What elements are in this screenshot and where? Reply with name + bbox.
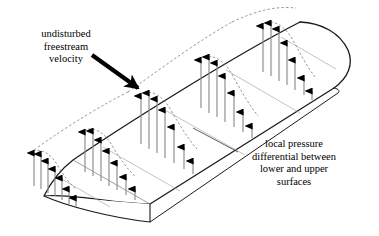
pressure-differential-label: local pressure differential between lowe… — [222, 138, 366, 188]
freestream-velocity-label: undisturbed freestream velocity — [14, 28, 118, 66]
wing-tip-thickness — [334, 88, 339, 93]
wing-pressure-diagram: undisturbed freestream velocity local pr… — [0, 0, 379, 236]
